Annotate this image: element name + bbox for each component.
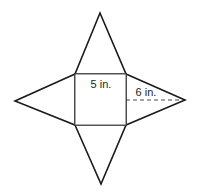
base-side-label: 5 in. — [91, 78, 112, 90]
left-triangle-face — [15, 74, 75, 125]
top-triangle-face — [75, 13, 126, 74]
pyramid-net-figure: 5 in. 6 in. — [0, 0, 197, 196]
bottom-triangle-face — [75, 125, 126, 184]
right-triangle-face — [126, 74, 185, 125]
slant-height-label: 6 in. — [136, 86, 157, 98]
pyramid-net-svg: 5 in. 6 in. — [0, 0, 197, 196]
